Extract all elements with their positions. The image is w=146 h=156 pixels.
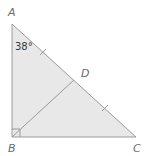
vertex-label-b: B — [8, 143, 16, 154]
vertex-label-a: A — [8, 7, 16, 18]
angle-label-a: 38° — [15, 42, 33, 52]
vertex-label-d: D — [81, 68, 89, 79]
triangle-diagram: A B C D 38° — [0, 0, 146, 156]
triangle-figure — [0, 0, 146, 156]
vertex-label-c: C — [133, 143, 141, 154]
